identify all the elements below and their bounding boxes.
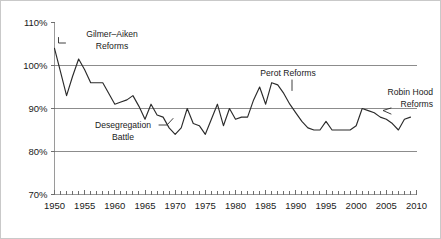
- annotation-label-robin-hood: Robin HoodReforms: [388, 87, 434, 109]
- y-tick-label: 90%: [28, 103, 48, 114]
- x-tick-label: 1950: [44, 200, 65, 211]
- x-tick-label: 2010: [406, 200, 427, 211]
- y-tick-labels: 110%100%90%80%70%: [23, 17, 48, 200]
- y-tick-label: 100%: [23, 60, 48, 71]
- x-axis: [55, 190, 417, 195]
- annotation-leader-gilmer-aiken: [59, 38, 66, 44]
- x-tick-label: 1995: [315, 200, 336, 211]
- chart-figure: 110%100%90%80%70% 1950195519601965197019…: [0, 0, 441, 239]
- y-tick-label: 80%: [28, 146, 48, 157]
- x-tick-label: 1980: [225, 200, 246, 211]
- annotation-label-gilmer-aiken: Gilmer–AikenReforms: [86, 29, 138, 51]
- x-tick-label: 1960: [104, 200, 125, 211]
- x-tick-label: 1975: [195, 200, 216, 211]
- annotations: Gilmer–AikenReformsDesegregationBattlePe…: [59, 29, 434, 142]
- x-tick-label: 2000: [346, 200, 367, 211]
- x-tick-label: 2005: [376, 200, 397, 211]
- y-tick-label: 70%: [28, 189, 48, 200]
- y-tick-label: 110%: [24, 17, 48, 28]
- annotation-label-perot: Perot Reforms: [260, 68, 315, 78]
- x-tick-label: 1970: [165, 200, 186, 211]
- y-axis: [51, 23, 55, 195]
- x-tick-labels: 1950195519601965197019751980198519901995…: [44, 200, 427, 211]
- x-tick-label: 1965: [134, 200, 155, 211]
- annotation-label-desegregation: DesegregationBattle: [95, 120, 151, 142]
- x-tick-label: 1955: [74, 200, 95, 211]
- x-tick-label: 1985: [255, 200, 276, 211]
- line-chart-plot: 110%100%90%80%70% 1950195519601965197019…: [1, 1, 441, 239]
- x-tick-label: 1990: [285, 200, 306, 211]
